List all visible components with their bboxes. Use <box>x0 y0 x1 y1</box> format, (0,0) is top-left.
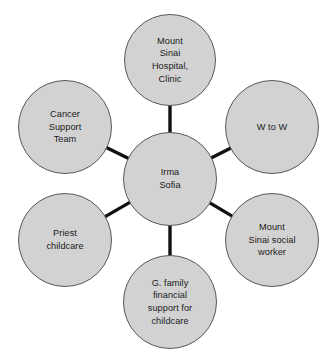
ecomap-diagram: Irma Sofia Mount Sinai Hospital, Clinic … <box>0 0 332 353</box>
edge-center-to-priest-childcare <box>104 202 131 218</box>
node-label: W to W <box>252 121 292 134</box>
node-w-to-w[interactable]: W to W <box>225 80 319 174</box>
node-label: Irma Sofia <box>154 166 185 193</box>
node-label: Cancer Support Team <box>44 108 87 146</box>
node-g-family-financial-support-for-childcare[interactable]: G. family financial support for childcar… <box>123 255 217 349</box>
node-label: Mount Sinai Hospital, Clinic <box>147 35 193 85</box>
node-cancer-support-team[interactable]: Cancer Support Team <box>18 80 112 174</box>
edge-center-to-cancer-support-team <box>105 147 129 159</box>
node-label: Priest childcare <box>41 227 88 252</box>
node-label: Mount Sinai social worker <box>243 221 300 259</box>
node-label: G. family financial support for childcar… <box>143 277 197 327</box>
node-mount-sinai-hospital-clinic[interactable]: Mount Sinai Hospital, Clinic <box>124 14 216 106</box>
node-mount-sinai-social-worker[interactable]: Mount Sinai social worker <box>225 193 319 287</box>
edge-center-to-mount-sinai-social-worker <box>209 202 234 217</box>
node-priest-childcare[interactable]: Priest childcare <box>18 193 112 287</box>
edge-center-to-w-to-w <box>210 147 232 158</box>
node-irma-sofia[interactable]: Irma Sofia <box>123 132 217 226</box>
